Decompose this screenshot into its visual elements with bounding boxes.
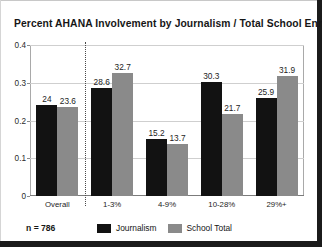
y-axis-tick-label: 0.3 bbox=[15, 78, 26, 87]
bar-journalism[interactable]: 24 bbox=[36, 105, 57, 196]
frame-bottom-border bbox=[0, 241, 322, 247]
y-axis-tick-label: 0.1 bbox=[15, 154, 26, 163]
sample-size-label: n = 786 bbox=[26, 223, 55, 233]
chart-screenshot: Percent AHANA Involvement by Journalism … bbox=[0, 0, 322, 247]
bar-group: 30.321.710-28% bbox=[194, 45, 249, 196]
bar-value-label: 24 bbox=[42, 94, 51, 104]
chart-title: Percent AHANA Involvement by Journalism … bbox=[14, 18, 310, 29]
bar-pair: 28.632.7 bbox=[85, 45, 140, 196]
bar-pair: 30.321.7 bbox=[194, 45, 249, 196]
x-axis-category-label: 4-9% bbox=[140, 200, 195, 209]
legend-swatch-journalism bbox=[97, 224, 111, 233]
bar-value-label: 28.6 bbox=[94, 77, 110, 87]
frame-left-border bbox=[0, 0, 1, 241]
x-axis-category-label: 10-28% bbox=[194, 200, 249, 209]
x-axis-category-label: 1-3% bbox=[85, 200, 140, 209]
dotted-divider-line bbox=[85, 42, 86, 206]
bar-journalism[interactable]: 30.3 bbox=[201, 82, 222, 196]
y-axis-tick-label: 0 bbox=[21, 192, 26, 201]
bar-pair: 15.213.7 bbox=[140, 45, 195, 196]
legend-item[interactable]: Journalism bbox=[97, 223, 157, 233]
frame-top-border bbox=[0, 0, 317, 1]
bar-school-total[interactable]: 21.7 bbox=[222, 114, 243, 196]
bar-journalism[interactable]: 15.2 bbox=[146, 139, 167, 196]
x-axis-category-label: Overall bbox=[30, 200, 85, 209]
bar-journalism[interactable]: 25.9 bbox=[256, 98, 277, 196]
legend-label: Journalism bbox=[116, 223, 157, 233]
bar-school-total[interactable]: 32.7 bbox=[112, 73, 133, 196]
legend-row: n = 786 JournalismSchool Total bbox=[0, 219, 317, 237]
legend-swatch-school bbox=[168, 224, 182, 233]
plot-area: 00.10.20.30.4 2423.6Overall28.632.71-3%1… bbox=[30, 45, 304, 196]
bar-journalism[interactable]: 28.6 bbox=[91, 88, 112, 196]
bar-group: 28.632.71-3% bbox=[85, 45, 140, 196]
bar-value-label: 25.9 bbox=[258, 87, 274, 97]
bar-school-total[interactable]: 13.7 bbox=[167, 144, 188, 196]
legend-item[interactable]: School Total bbox=[168, 223, 232, 233]
bar-value-label: 13.7 bbox=[169, 133, 185, 143]
y-axis-tick-label: 0.4 bbox=[15, 41, 26, 50]
bar-value-label: 21.7 bbox=[224, 103, 240, 113]
y-axis-tick-mark bbox=[27, 196, 30, 197]
bar-school-total[interactable]: 23.6 bbox=[57, 107, 78, 196]
frame-right-border bbox=[317, 0, 322, 247]
bar-group: 25.931.929%+ bbox=[249, 45, 304, 196]
bar-pair: 2423.6 bbox=[30, 45, 85, 196]
bar-pair: 25.931.9 bbox=[249, 45, 304, 196]
y-axis-tick-label: 0.2 bbox=[15, 116, 26, 125]
bar-value-label: 32.7 bbox=[115, 62, 131, 72]
x-axis-category-label: 29%+ bbox=[249, 200, 304, 209]
bar-group: 2423.6Overall bbox=[30, 45, 85, 196]
bar-value-label: 30.3 bbox=[203, 71, 219, 81]
legend-items: JournalismSchool Total bbox=[97, 223, 232, 233]
legend-label: School Total bbox=[187, 223, 232, 233]
bar-value-label: 15.2 bbox=[148, 128, 164, 138]
bar-school-total[interactable]: 31.9 bbox=[277, 76, 298, 196]
bar-group: 15.213.74-9% bbox=[140, 45, 195, 196]
bar-value-label: 23.6 bbox=[60, 96, 76, 106]
bar-value-label: 31.9 bbox=[279, 65, 295, 75]
